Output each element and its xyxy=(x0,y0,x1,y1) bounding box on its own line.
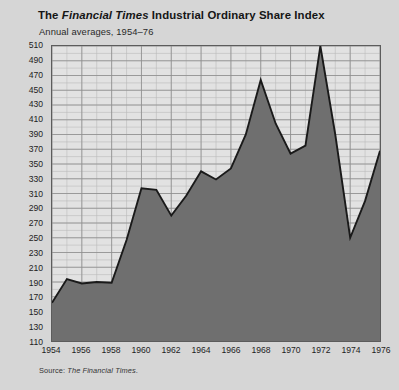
y-axis-tick-label: 370 xyxy=(29,144,43,153)
page-subtitle: Annual averages, 1954–76 xyxy=(39,26,153,37)
x-axis-tick-label: 1968 xyxy=(251,345,270,355)
x-axis-labels: 1954195619581960196219641966196819701972… xyxy=(51,345,381,361)
plot-area xyxy=(51,45,381,342)
x-axis-tick-label: 1974 xyxy=(341,345,360,355)
series-area-chart xyxy=(52,46,380,341)
page-title: The Financial Times Industrial Ordinary … xyxy=(38,9,325,21)
y-axis-tick-label: 410 xyxy=(29,115,43,124)
source-label: Source: xyxy=(39,366,67,375)
y-axis-tick-label: 170 xyxy=(29,293,43,302)
x-axis-tick-label: 1970 xyxy=(281,345,300,355)
source-period: . xyxy=(136,366,138,375)
y-axis-tick-label: 210 xyxy=(29,263,43,272)
y-axis-tick-label: 230 xyxy=(29,248,43,257)
y-axis-tick-label: 250 xyxy=(29,234,43,243)
y-axis-tick-label: 290 xyxy=(29,204,43,213)
y-axis-tick-label: 270 xyxy=(29,219,43,228)
source-publication: The Financial Times xyxy=(67,366,135,375)
y-axis-tick-label: 310 xyxy=(29,189,43,198)
x-axis-tick-label: 1954 xyxy=(41,345,60,355)
y-axis-tick-label: 390 xyxy=(29,130,43,139)
y-axis-tick-label: 490 xyxy=(29,55,43,64)
x-axis-tick-label: 1960 xyxy=(131,345,150,355)
y-axis-tick-label: 190 xyxy=(29,278,43,287)
source-note: Source: The Financial Times. xyxy=(39,366,138,375)
y-axis-tick-label: 130 xyxy=(29,323,43,332)
y-axis-labels: 1101301501701902102302502702903103303503… xyxy=(0,45,47,342)
x-axis-tick-label: 1962 xyxy=(161,345,180,355)
x-axis-tick-label: 1956 xyxy=(71,345,90,355)
chart-page: The Financial Times Industrial Ordinary … xyxy=(0,0,399,390)
title-publication: Financial Times xyxy=(62,9,149,21)
x-axis-tick-label: 1966 xyxy=(221,345,240,355)
y-axis-tick-label: 510 xyxy=(29,41,43,50)
x-axis-tick-label: 1964 xyxy=(191,345,210,355)
x-axis-tick-label: 1972 xyxy=(311,345,330,355)
y-axis-tick-label: 430 xyxy=(29,100,43,109)
title-prefix: The xyxy=(38,9,62,21)
y-axis-tick-label: 470 xyxy=(29,70,43,79)
y-axis-tick-label: 330 xyxy=(29,174,43,183)
y-axis-tick-label: 150 xyxy=(29,308,43,317)
x-axis-tick-label: 1958 xyxy=(101,345,120,355)
x-axis-tick-label: 1976 xyxy=(371,345,390,355)
title-suffix: Industrial Ordinary Share Index xyxy=(149,9,325,21)
y-axis-tick-label: 450 xyxy=(29,85,43,94)
y-axis-tick-label: 350 xyxy=(29,159,43,168)
